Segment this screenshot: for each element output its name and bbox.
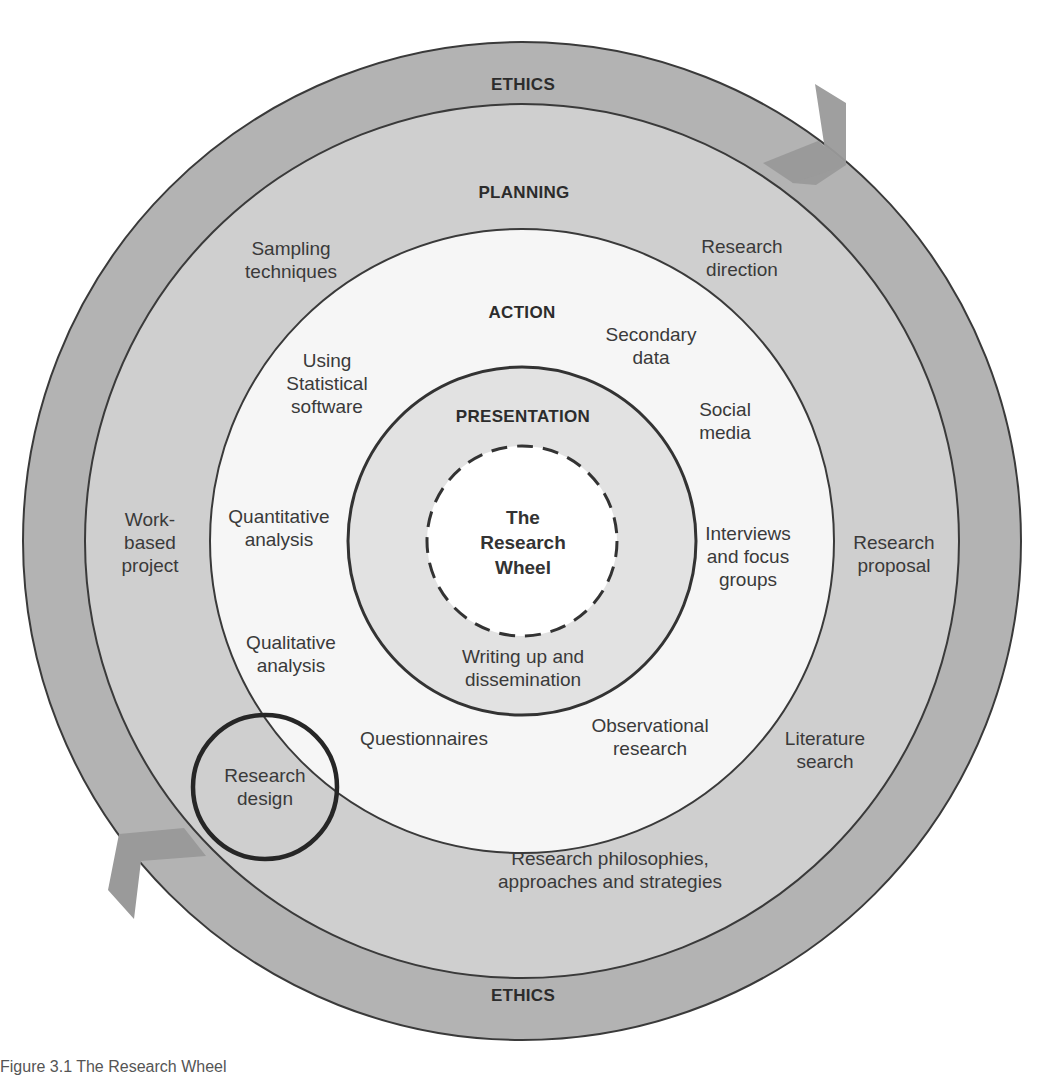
- ethics-label-bottom: ETHICS: [491, 986, 555, 1006]
- ethics-label-top: ETHICS: [491, 75, 555, 95]
- action-item-using-statistical-software: Using Statistical software: [286, 349, 367, 418]
- action-label: ACTION: [489, 303, 556, 323]
- planning-item-work-based-project: Work- based project: [121, 508, 178, 577]
- planning-item-research-direction: Research direction: [701, 235, 782, 281]
- planning-item-literature-search: Literature search: [785, 727, 865, 773]
- action-item-secondary-data: Secondary data: [606, 323, 697, 369]
- action-item-quantitative-analysis: Quantitative analysis: [228, 505, 329, 551]
- action-item-questionnaires: Questionnaires: [360, 727, 488, 750]
- planning-item-research-philosophies: Research philosophies, approaches and st…: [498, 847, 722, 893]
- action-item-qualitative-analysis: Qualitative analysis: [246, 631, 336, 677]
- figure-caption: Figure 3.1 The Research Wheel: [0, 1058, 226, 1076]
- action-item-observational-research: Observational research: [591, 714, 708, 760]
- presentation-item-writing-up: Writing up and dissemination: [462, 645, 584, 691]
- planning-item-research-proposal: Research proposal: [853, 531, 934, 577]
- center-label: The Research Wheel: [480, 505, 566, 580]
- planning-label: PLANNING: [478, 183, 569, 203]
- action-item-interviews-focus-groups: Interviews and focus groups: [705, 522, 791, 591]
- presentation-label: PRESENTATION: [456, 407, 590, 427]
- action-item-social-media: Social media: [699, 398, 751, 444]
- planning-item-sampling-techniques: Sampling techniques: [245, 237, 337, 283]
- planning-item-research-design: Research design: [224, 764, 305, 810]
